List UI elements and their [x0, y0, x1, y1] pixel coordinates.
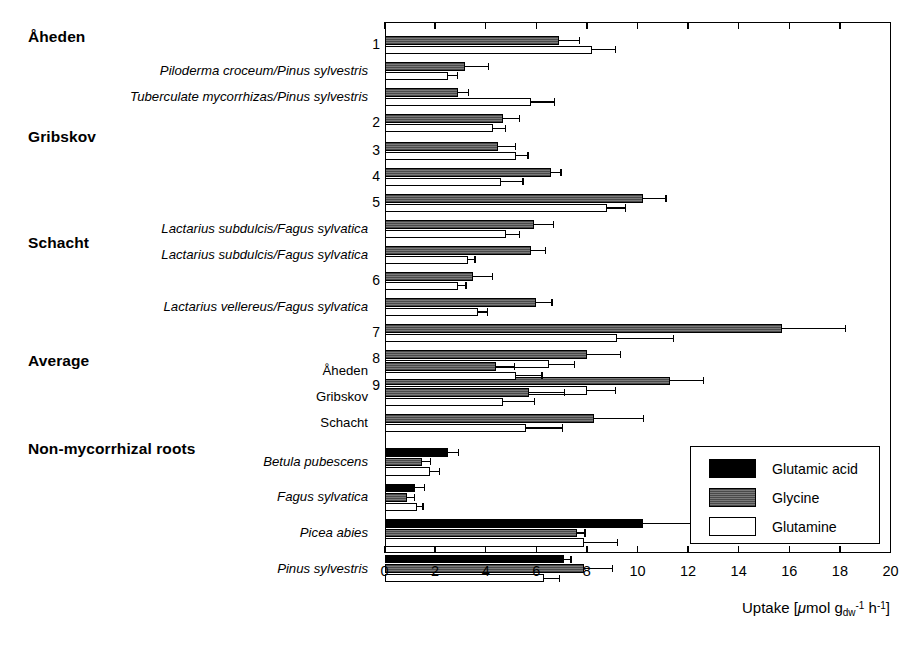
error-bar-2-3-1	[617, 338, 673, 339]
bar-gly-4-2	[385, 529, 577, 538]
error-bar-1-3-1	[506, 234, 519, 235]
group-title-4: Non-mycorrhizal roots	[28, 440, 195, 458]
x-tick-mark-2	[434, 546, 435, 553]
row-label-1-3: Lactarius subdulcis/Fagus sylvatica	[161, 221, 368, 236]
x-axis-label-text: Uptake [μmol gdw-1 h-1]	[742, 599, 890, 616]
bar-gly-3-1	[385, 388, 529, 397]
error-bar-4-1-0	[415, 487, 424, 488]
error-bar-3-0-1	[516, 375, 541, 376]
bar-gln-3-1	[385, 398, 504, 407]
error-cap-3-0-0	[514, 363, 515, 370]
x-tick-mark-top-8	[586, 22, 587, 29]
x-tick-label-10: 10	[618, 563, 658, 579]
error-bar-2-1-1	[458, 285, 466, 286]
error-bar-1-1-0	[551, 172, 560, 173]
error-bar-2-2-1	[478, 311, 487, 312]
bar-gln-0-2	[385, 98, 532, 107]
x-tick-label-4: 4	[466, 563, 506, 579]
y-tick-5: 5	[372, 194, 380, 210]
error-cap-0-3-1	[505, 125, 506, 132]
bar-gln-1-0	[385, 152, 517, 161]
x-tick-mark-0	[384, 546, 385, 553]
error-bar-1-2-1	[607, 207, 625, 208]
error-bar-2-4-1	[549, 364, 574, 365]
bar-gly-1-2	[385, 194, 643, 203]
error-cap-1-0-1	[527, 152, 528, 159]
bar-gln-2-3	[385, 334, 618, 343]
group-title-3: Average	[28, 352, 89, 370]
x-tick-label-2: 2	[415, 563, 455, 579]
x-tick-mark-top-10	[637, 22, 638, 29]
error-bar-1-1-1	[501, 181, 523, 182]
error-cap-0-1-0	[488, 63, 489, 70]
y-tick-3: 3	[372, 142, 380, 158]
x-tick-mark-16	[789, 546, 790, 553]
error-bar-4-0-2	[430, 471, 439, 472]
error-cap-4-2-1	[584, 529, 585, 536]
bar-gly-0-3	[385, 114, 504, 123]
x-tick-mark-top-18	[839, 22, 840, 29]
error-bar-4-2-1	[577, 532, 585, 533]
bar-glu-4-0	[385, 448, 448, 457]
bar-gly-1-3	[385, 220, 534, 229]
error-bar-1-3-0	[534, 224, 553, 225]
error-bar-3-0-0	[496, 366, 514, 367]
bar-gly-1-0	[385, 142, 499, 151]
error-cap-2-5-1	[615, 387, 616, 394]
error-bar-0-1-1	[448, 75, 457, 76]
error-cap-0-0-1	[615, 46, 616, 53]
error-cap-1-3-1	[519, 231, 520, 238]
x-tick-label-8: 8	[567, 563, 607, 579]
x-tick-label-20: 20	[871, 563, 911, 579]
y-tick-8: 8	[372, 350, 380, 366]
error-bar-0-2-0	[458, 92, 468, 93]
error-cap-4-1-2	[422, 503, 423, 510]
error-bar-4-2-2	[584, 542, 617, 543]
bar-gly-2-0	[385, 246, 532, 255]
bar-gly-0-2	[385, 88, 458, 97]
x-tick-mark-18	[839, 546, 840, 553]
x-tick-mark-12	[687, 546, 688, 553]
x-tick-mark-8	[586, 546, 587, 553]
error-cap-4-3-1	[612, 565, 613, 572]
row-label-4-2: Picea abies	[300, 525, 368, 540]
error-cap-2-2-0	[551, 299, 552, 306]
bar-gln-0-3	[385, 124, 494, 133]
chart-legend: Glutamic acidGlycineGlutamine	[690, 446, 880, 544]
bar-gln-2-1	[385, 282, 458, 291]
bar-gln-0-0	[385, 46, 592, 55]
y-tick-7: 7	[372, 324, 380, 340]
error-cap-3-0-1	[541, 372, 542, 379]
error-cap-2-0-0	[545, 247, 546, 254]
bar-gly-2-2	[385, 298, 537, 307]
bar-gly-0-0	[385, 36, 560, 45]
error-cap-4-1-1	[414, 494, 415, 501]
error-bar-3-1-1	[503, 401, 533, 402]
row-label-4-1: Fagus sylvatica	[277, 489, 368, 504]
bar-gln-2-0	[385, 256, 468, 265]
legend-item-glu: Glutamic acid	[709, 459, 858, 478]
error-bar-2-5-0	[670, 380, 703, 381]
error-cap-1-2-0	[665, 195, 666, 202]
error-bar-2-2-0	[536, 302, 551, 303]
x-tick-mark-top-0	[384, 22, 385, 29]
bar-gly-0-1	[385, 62, 466, 71]
bar-gly-3-2	[385, 414, 595, 423]
y-tick-2: 2	[372, 114, 380, 130]
error-bar-3-2-1	[526, 427, 561, 428]
legend-label-gly: Glycine	[772, 490, 819, 506]
x-tick-label-16: 16	[769, 563, 809, 579]
error-cap-4-1-0	[424, 484, 425, 491]
error-bar-2-1-0	[473, 276, 492, 277]
row-label-2-2: Lactarius vellereus/Fagus sylvatica	[164, 299, 369, 314]
error-bar-0-3-1	[493, 128, 504, 129]
error-bar-1-0-0	[498, 146, 514, 147]
y-tick-6: 6	[372, 272, 380, 288]
error-cap-2-3-1	[673, 335, 674, 342]
error-cap-1-3-0	[553, 221, 554, 228]
error-bar-4-0-1	[422, 461, 430, 462]
x-tick-mark-top-14	[738, 22, 739, 29]
error-bar-0-3-0	[503, 118, 518, 119]
x-tick-mark-6	[536, 546, 537, 553]
error-bar-0-1-0	[465, 66, 488, 67]
